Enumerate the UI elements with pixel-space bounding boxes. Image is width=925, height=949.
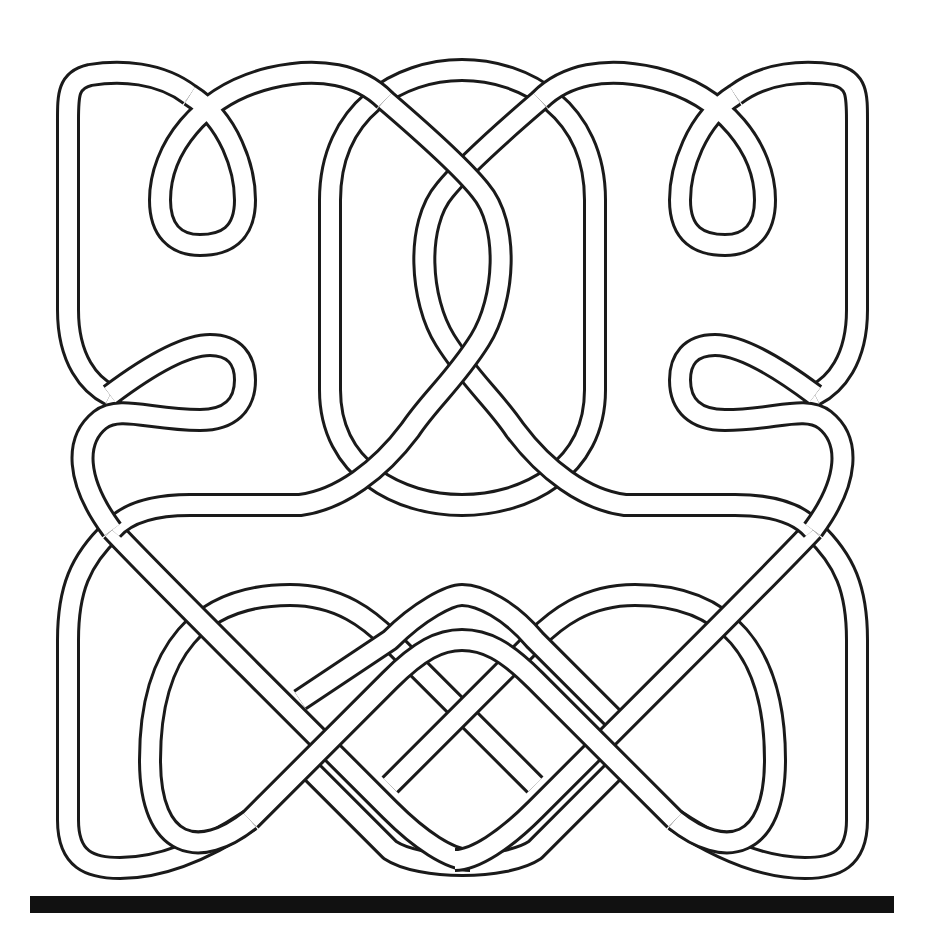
plait-bands <box>112 530 813 865</box>
outer-frame-band <box>68 73 857 868</box>
twist-bands <box>112 100 813 530</box>
center-oval-band <box>330 70 595 505</box>
knot-bands <box>68 70 857 868</box>
celtic-knot-diagram <box>0 0 925 949</box>
base-bar <box>30 896 894 913</box>
side-loop-bands <box>83 73 843 530</box>
